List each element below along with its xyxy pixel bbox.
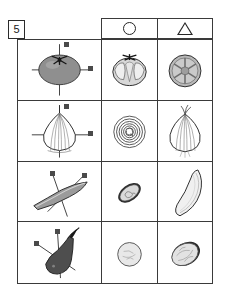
cucumber-with-axes [18, 162, 101, 222]
axis-label-horizontal [88, 66, 93, 71]
onion-with-axes [18, 101, 101, 161]
axis-label-horizontal [34, 241, 39, 246]
header-cell-circle [102, 19, 157, 38]
table-row [158, 162, 212, 223]
axis-label-vertical [50, 171, 55, 176]
table-header-row [101, 18, 213, 39]
table-row [158, 222, 212, 283]
vegetable-section-table [17, 39, 213, 284]
axis-label-horizontal [88, 131, 93, 136]
axis-label-vertical [64, 104, 69, 109]
axis-label-vertical [55, 229, 60, 234]
table-row [102, 101, 158, 162]
eggplant-with-axes [18, 222, 101, 283]
table-row [102, 222, 158, 283]
cucumber-whole-long [158, 162, 212, 222]
table-row [158, 101, 212, 162]
triangle-icon [177, 22, 193, 35]
table-row [102, 40, 158, 101]
table-row [158, 40, 212, 101]
circle-icon [123, 22, 136, 35]
table-row [102, 162, 158, 223]
table-row [18, 40, 102, 101]
header-cell-triangle [157, 19, 213, 38]
axis-label-vertical [64, 42, 69, 47]
table-row [18, 162, 102, 223]
worksheet-sheet: 5 [0, 0, 225, 303]
question-number: 5 [13, 24, 19, 35]
tomato-transverse-section [158, 40, 212, 100]
eggplant-oval-section [158, 222, 212, 283]
tomato-longitudinal-section [102, 40, 157, 100]
table-row [18, 222, 102, 283]
axis-label-horizontal [82, 173, 87, 178]
table-row [18, 101, 102, 162]
tomato-with-axes [18, 40, 101, 100]
onion-transverse-rings-section [102, 101, 157, 161]
question-number-box: 5 [8, 20, 25, 39]
cucumber-oval-section [102, 162, 157, 222]
onion-longitudinal-section [158, 101, 212, 161]
eggplant-round-section [102, 222, 157, 283]
